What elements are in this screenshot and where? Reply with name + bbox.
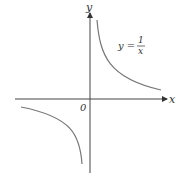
y-axis-label: y — [85, 1, 93, 14]
equation-numerator: 1 — [138, 35, 144, 45]
hyperbola-chart: y x 0 y = 1 x — [0, 0, 186, 185]
x-axis-label: x — [169, 93, 176, 106]
equation-left: y = — [117, 40, 135, 51]
curve-positive-branch — [97, 20, 161, 90]
curve-negative-branch — [21, 107, 82, 164]
equation-denominator: x — [138, 46, 143, 56]
origin-label: 0 — [80, 102, 87, 113]
